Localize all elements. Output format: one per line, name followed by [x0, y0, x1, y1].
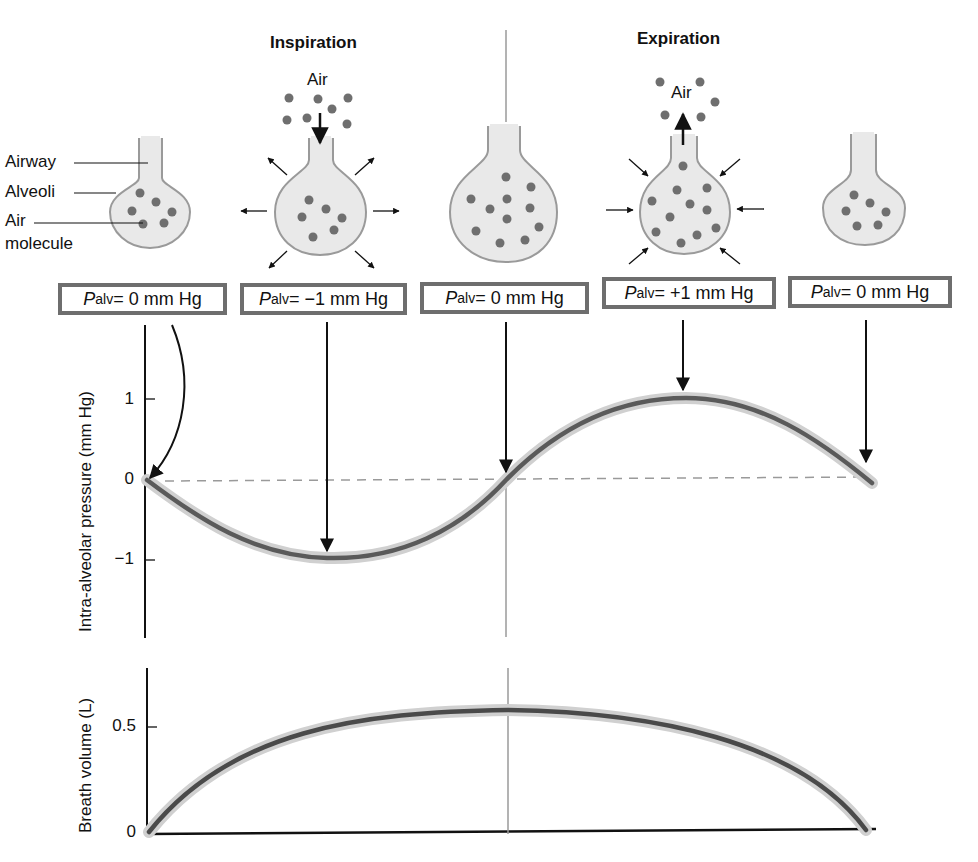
pressure-tick-0: 0 [94, 469, 134, 489]
alveolus-end-inspiration [450, 124, 557, 262]
volume-chart [147, 668, 876, 834]
zero-baseline [165, 477, 872, 481]
pressure-chart [145, 320, 872, 638]
volume-tick-0: 0 [96, 822, 136, 842]
pressure-box-4: Palv = +1 mm Hg [602, 277, 776, 309]
volume-y-label: Breath volume (L) [76, 698, 96, 833]
pressure-y-label: Intra-alveolar pressure (mm Hg) [76, 391, 96, 632]
pressure-box-5: Palv = 0 mm Hg [788, 276, 952, 308]
pressure-box-2: Palv = −1 mm Hg [240, 283, 407, 315]
pressure-box-3: Palv = 0 mm Hg [420, 282, 589, 314]
pressure-box-1: Palv = 0 mm Hg [58, 283, 227, 315]
ventilation-diagram: Inspiration Expiration Airway Alveoli Ai… [0, 0, 978, 862]
volume-x-axis [147, 829, 876, 834]
alveolus-expiration [606, 78, 764, 265]
alveolus-rest-end [823, 132, 905, 245]
pressure-tick-neg1: −1 [94, 549, 134, 569]
diagram-graphics [0, 0, 978, 862]
alveolus-inspiration [241, 94, 399, 269]
pressure-tick-1: 1 [94, 389, 134, 409]
alveolus-rest-start [34, 136, 190, 248]
volume-tick-05: 0.5 [96, 716, 136, 736]
